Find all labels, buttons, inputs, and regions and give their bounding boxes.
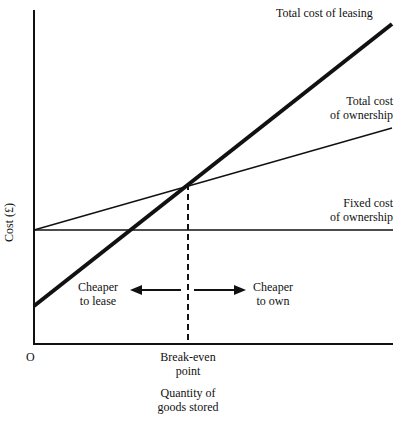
fixed-cost-label: Fixed cost of ownership: [330, 196, 393, 224]
break-even-label-line2: point: [155, 364, 221, 378]
x-axis-title-line2: goods stored: [150, 400, 226, 414]
origin-label: O: [26, 350, 35, 364]
own-label-line1: Cheaper: [253, 280, 293, 294]
ownership-label: Total cost of ownership: [330, 94, 393, 122]
right-arrow-icon: [194, 285, 246, 295]
y-axis-title: Cost (£): [2, 203, 17, 242]
x-axis-title: Quantity of goods stored: [150, 386, 226, 414]
fixed-cost-label-line1: Fixed cost: [330, 196, 393, 210]
lease-label-line2: to lease: [78, 294, 118, 308]
leasing-label: Total cost of leasing: [276, 6, 373, 20]
x-axis-title-line1: Quantity of: [150, 386, 226, 400]
ownership-label-line2: of ownership: [330, 108, 393, 122]
left-arrow-icon: [130, 285, 181, 295]
break-even-label-line1: Break-even: [155, 350, 221, 364]
break-even-label: Break-even point: [155, 350, 221, 378]
cheaper-to-lease-label: Cheaper to lease: [78, 280, 118, 308]
cheaper-to-own-label: Cheaper to own: [253, 280, 293, 308]
lease-label-line1: Cheaper: [78, 280, 118, 294]
leasing-cost-line: [34, 24, 392, 306]
ownership-label-line1: Total cost: [330, 94, 393, 108]
own-label-line2: to own: [253, 294, 293, 308]
fixed-cost-label-line2: of ownership: [330, 210, 393, 224]
